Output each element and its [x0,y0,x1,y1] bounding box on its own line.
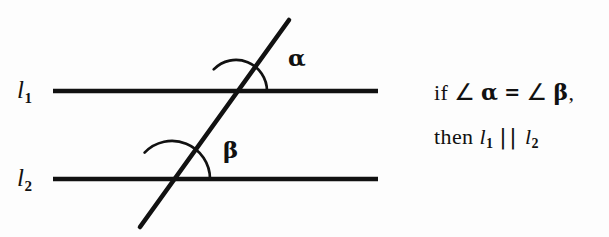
line-label-l2-letter: l [17,164,24,191]
parallel-symbol-icon: || [499,124,519,149]
statement-if-word: if [434,80,448,105]
statement-l2: l2 [525,124,539,149]
line-transversal [140,20,289,227]
equals-sign: = [504,81,520,103]
line-label-l2-subscript: 2 [24,178,32,194]
angle-label-beta: β [223,138,238,161]
statement-comma: , [569,80,575,105]
line-label-l2: l2 [17,165,32,194]
angle-symbol-icon-1: ∠ [454,79,475,105]
statement-l2-subscript: 2 [531,136,538,151]
geometry-figure: l1 l2 α β if ∠ α = ∠ β, then l1 || l2 [0,0,609,237]
statement-l1-subscript: 1 [486,136,493,151]
line-label-l1: l1 [17,77,32,106]
angle-label-alpha: α [288,46,306,69]
diagram-canvas [0,0,609,237]
statement-line-2: then l1 || l2 [434,126,539,151]
statement-l1: l1 [479,124,493,149]
statement-then-word: then [434,124,473,149]
statement-beta: β [554,79,569,105]
angle-symbol-icon-2: ∠ [527,79,548,105]
line-label-l1-letter: l [17,76,24,103]
statement-line-1: if ∠ α = ∠ β, [434,81,574,104]
line-label-l1-subscript: 1 [24,90,32,106]
statement-alpha: α [481,79,498,105]
